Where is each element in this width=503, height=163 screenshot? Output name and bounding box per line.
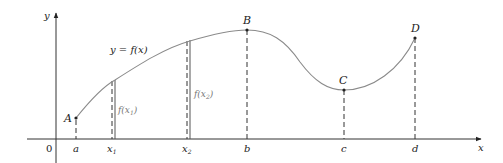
label-C: C — [339, 74, 348, 87]
tick-a: a — [73, 143, 79, 154]
label-A: A — [63, 112, 72, 125]
point-D — [413, 36, 416, 39]
curve-equation-label: y = f(x) — [109, 44, 148, 55]
y-axis-label: y — [43, 10, 50, 21]
tick-x2: x2 — [182, 143, 192, 155]
label-B: B — [242, 14, 251, 27]
fx1-label: f(x1) — [117, 105, 138, 116]
origin-label: 0 — [46, 143, 52, 154]
tick-x1: x1 — [107, 143, 116, 155]
fx2-label: f(x2) — [193, 89, 214, 100]
point-B — [245, 28, 248, 31]
point-C — [342, 88, 345, 91]
point-A — [74, 116, 77, 119]
tick-b: b — [244, 143, 250, 154]
tick-d: d — [412, 143, 418, 154]
x-axis-label: x — [478, 142, 484, 153]
tick-c: c — [341, 143, 347, 154]
label-D: D — [410, 22, 420, 35]
function-extrema-diagram: A B C D y = f(x) f(x1) f(x2) y x 0 a x1 … — [0, 0, 503, 163]
